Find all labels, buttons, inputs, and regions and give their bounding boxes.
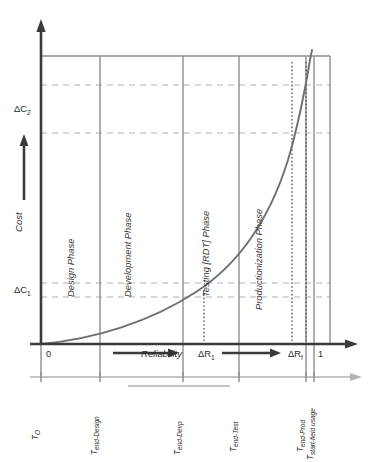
timeline-label-end-test-subscript: end-Test bbox=[232, 420, 239, 447]
timeline-label-end-prod: Tend-Prod bbox=[296, 420, 306, 452]
cost-reliability-chart: Cost ΔC2 ΔC1 Design Phase Development Ph… bbox=[0, 0, 378, 462]
phase-label-testing: Testing [RDT] Phase bbox=[200, 211, 211, 297]
y-axis bbox=[36, 19, 45, 344]
timeline-axis-arrowhead bbox=[350, 373, 362, 381]
reliability-tick-drf-base: ΔR bbox=[288, 348, 301, 359]
timeline-label-end-design-subscript: end-Design bbox=[93, 416, 101, 450]
cost-direction-arrow bbox=[20, 134, 29, 200]
timeline-label-start-field-usage-subscript: start-field usage bbox=[309, 408, 317, 455]
x-axis-inline-labels: 0 Reliability ΔR1 ΔRf 1 bbox=[46, 348, 323, 361]
phase-label-productionization: Productionization Phase bbox=[253, 209, 264, 310]
cost-tick-dc2-label: ΔC2 bbox=[14, 103, 31, 116]
reliability-tick-dr1-base: ΔR bbox=[198, 348, 211, 359]
x-axis bbox=[30, 339, 358, 348]
phase-label-design: Design Phase bbox=[65, 239, 76, 297]
y-axis-label: Cost bbox=[13, 212, 24, 232]
chart-svg: Cost ΔC2 ΔC1 Design Phase Development Ph… bbox=[0, 0, 378, 462]
y-axis-arrowhead bbox=[36, 19, 45, 32]
cost-guide-lines bbox=[41, 85, 330, 297]
cost-tick-dc2-subscript: 2 bbox=[27, 109, 31, 116]
cost-tick-dc1-label: ΔC1 bbox=[14, 284, 31, 297]
increment-arrows bbox=[113, 349, 281, 358]
cost-direction-arrowhead bbox=[20, 134, 29, 146]
drf-span-arrowhead bbox=[270, 349, 281, 358]
reliability-tick-dr1-subscript: 1 bbox=[211, 354, 215, 361]
timeline-labels: TO Tend-Design Tend-Devp Tend-Test Tend-… bbox=[31, 408, 317, 460]
timeline-label-end-prod-subscript: end-Prod bbox=[299, 420, 306, 447]
reliability-tick-dr1-label: ΔR1 bbox=[198, 348, 215, 361]
phase-label-development: Development Phase bbox=[122, 213, 133, 297]
timeline-axis bbox=[30, 373, 362, 381]
cost-tick-dc1-subscript: 1 bbox=[27, 290, 31, 297]
timeline-label-t0-subscript: O bbox=[34, 430, 41, 435]
x-axis-origin-label: 0 bbox=[46, 349, 51, 359]
cost-tick-labels: ΔC2 ΔC1 bbox=[14, 103, 31, 297]
timeline-label-end-design: Tend-Design bbox=[90, 416, 101, 455]
x-axis-max-label: 1 bbox=[318, 349, 323, 359]
cost-tick-dc1-base: ΔC bbox=[14, 284, 27, 295]
timeline-label-end-devp: Tend-Devp bbox=[173, 421, 184, 455]
reliability-tick-drf-subscript: f bbox=[301, 354, 303, 361]
timeline-label-start-field-usage: Tstart-field usage bbox=[306, 408, 317, 460]
timeline-label-end-test: Tend-Test bbox=[229, 420, 239, 452]
timeline-label-t0: TO bbox=[31, 430, 41, 440]
reliability-tick-drf-label: ΔRf bbox=[288, 348, 303, 361]
cost-tick-dc2-base: ΔC bbox=[14, 103, 27, 114]
cost-growth-curve bbox=[41, 50, 312, 344]
timeline-label-end-devp-subscript: end-Devp bbox=[176, 421, 184, 450]
x-axis-arrowhead bbox=[345, 339, 358, 348]
phase-separators bbox=[41, 56, 330, 377]
x-axis-label: Reliability bbox=[141, 348, 183, 359]
